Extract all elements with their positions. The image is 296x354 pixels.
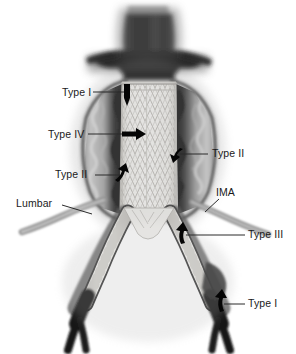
label-type-2-right: Type II <box>212 148 244 159</box>
soft-haze <box>62 58 234 342</box>
label-type-1-proximal: Type I <box>62 87 91 98</box>
label-lumbar: Lumbar <box>16 198 52 209</box>
label-ima: IMA <box>216 187 235 198</box>
label-type-3: Type III <box>248 229 283 240</box>
figure-root: Type I Type IV Type II Type II Lumbar IM… <box>0 0 296 354</box>
label-type-2-left: Type II <box>55 169 87 180</box>
label-type-4: Type IV <box>48 129 84 140</box>
label-type-1-distal: Type I <box>248 298 277 309</box>
